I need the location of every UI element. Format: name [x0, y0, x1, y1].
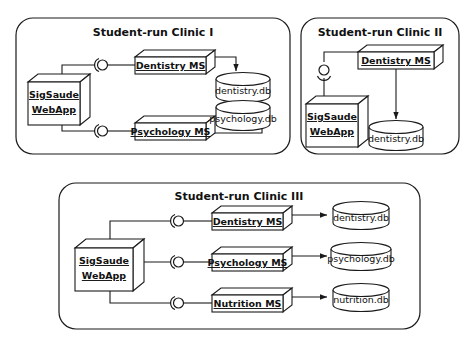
clinic-1-service-psychology-label: Psychology MS — [131, 126, 211, 137]
clinic-1-db-psychology-label: psychology.db — [209, 113, 277, 124]
clinic-2-webapp-component: SigSaude WebApp — [306, 96, 368, 147]
clinic-1-webapp-line1: SigSaude — [29, 89, 79, 100]
clinic-1-connector-psychology — [95, 125, 108, 138]
clinic-3-webapp-component: SigSaude WebApp — [75, 239, 144, 291]
clinic-3-service-nutrition: Nutrition MS — [212, 288, 292, 312]
clinic-3-db-psychology: psychology.db — [327, 243, 395, 271]
clinic-3-webapp-line1: SigSaude — [79, 255, 129, 266]
clinic-3-group: Student-run Clinic III SigSaude WebApp — [59, 183, 420, 329]
clinic-1-webapp-component: SigSaude WebApp — [28, 74, 90, 125]
clinic-3-db-dentistry-label: dentistry.db — [333, 212, 389, 223]
clinic-3-service-dentistry: Dentistry MS — [212, 206, 292, 230]
clinic-1-arrow-dentistry-db — [215, 57, 236, 71]
clinic-3-service-dentistry-label: Dentistry MS — [213, 216, 283, 227]
clinic-3-db-psychology-label: psychology.db — [327, 253, 395, 264]
clinic-1-service-psychology: Psychology MS — [131, 116, 215, 140]
clinic-1-db-psychology: psychology.db — [209, 101, 277, 131]
clinic-2-db-dentistry-label: dentistry.db — [368, 133, 424, 144]
clinic-3-title: Student-run Clinic III — [175, 190, 304, 203]
clinic-3-connector-nutrition — [171, 297, 184, 310]
clinic-1-db-dentistry: dentistry.db — [215, 73, 271, 103]
clinic-2-webapp-line1: SigSaude — [307, 111, 357, 122]
clinic-3-db-nutrition: nutrition.db — [333, 284, 389, 312]
clinic-3-webapp-line2: WebApp — [82, 270, 127, 281]
diagram-canvas: Student-run Clinic I SigSaude WebApp — [0, 0, 471, 346]
clinic-2-service-dentistry: Dentistry MS — [358, 45, 443, 69]
clinic-3-connector-dentistry — [171, 215, 184, 228]
clinic-1-service-dentistry-label: Dentistry MS — [136, 60, 206, 71]
clinic-3-connector-psychology — [171, 256, 184, 269]
clinic-1-group: Student-run Clinic I SigSaude WebApp — [16, 18, 290, 154]
clinic-2-service-dentistry-label: Dentistry MS — [361, 55, 431, 66]
clinic-2-title: Student-run Clinic II — [318, 26, 443, 39]
clinic-1-service-dentistry: Dentistry MS — [135, 50, 215, 74]
clinic-3-service-psychology: Psychology MS — [208, 247, 292, 271]
clinic-2-db-dentistry: dentistry.db — [368, 121, 424, 151]
clinic-3-db-nutrition-label: nutrition.db — [333, 294, 389, 305]
clinic-1-connector-dentistry — [95, 59, 108, 72]
clinic-3-service-psychology-label: Psychology MS — [208, 257, 288, 268]
clinic-1-db-dentistry-label: dentistry.db — [215, 85, 271, 96]
clinic-3-service-nutrition-label: Nutrition MS — [214, 298, 282, 309]
clinic-2-wire-top — [324, 52, 358, 62]
clinic-1-webapp-line2: WebApp — [32, 104, 77, 115]
clinic-1-title: Student-run Clinic I — [93, 26, 214, 39]
clinic-2-group: Student-run Clinic II SigSaude WebApp De… — [301, 18, 459, 154]
clinic-3-db-dentistry: dentistry.db — [333, 202, 389, 230]
clinic-2-webapp-line2: WebApp — [310, 126, 355, 137]
